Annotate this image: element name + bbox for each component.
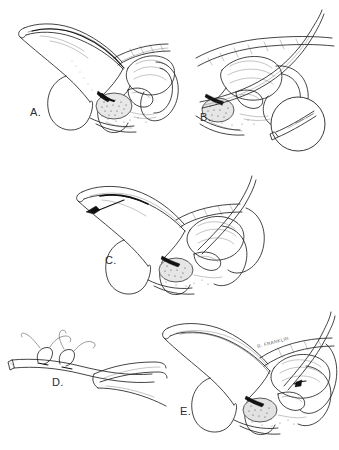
panel-b-inset bbox=[270, 97, 325, 151]
panel-a-illustration bbox=[10, 6, 190, 146]
panel-c-anatomy bbox=[77, 176, 265, 295]
panel-b-label: B. bbox=[200, 111, 211, 123]
panel-b-illustration bbox=[188, 6, 338, 151]
panel-c: C. bbox=[70, 168, 280, 296]
panel-a-anatomy bbox=[19, 24, 179, 133]
traction-arrow bbox=[86, 200, 124, 214]
panel-e-illustration bbox=[160, 310, 338, 445]
panel-e-label: E. bbox=[180, 405, 191, 417]
panel-d-illustration bbox=[8, 318, 168, 413]
panel-c-label: C. bbox=[105, 254, 117, 266]
panel-c-illustration bbox=[70, 168, 280, 296]
panel-d-label: D. bbox=[52, 376, 64, 388]
panel-a-label: A. bbox=[30, 106, 41, 118]
figure-canvas: A. bbox=[0, 0, 339, 450]
panel-b: B. bbox=[188, 6, 338, 151]
panel-a: A. bbox=[10, 6, 190, 146]
panel-d-detail bbox=[8, 330, 167, 406]
panel-e: E. bbox=[160, 310, 338, 445]
panel-d: D. bbox=[8, 318, 168, 413]
